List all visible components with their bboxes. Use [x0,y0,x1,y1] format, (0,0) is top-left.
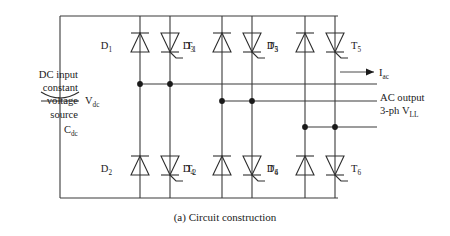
T4-gate-lead [252,175,265,181]
label-D2: D2 [101,163,113,177]
device-T6 [326,156,348,181]
ac-output-line-2-base: 3-ph V [380,105,410,116]
dc-input-line-3: voltage [6,94,78,107]
T6-gate-lead [335,175,348,181]
label-T5-sub: 5 [357,46,361,54]
T3-gate-lead [252,52,265,58]
ac-output-lines [140,84,377,127]
circuit-figure: D1 T1 D3 T3 D5 T5 D2 T2 [0,0,450,236]
label-c-dc-sub: dc [71,130,78,138]
dc-input-line-2: constant [6,81,78,94]
device-T1 [161,33,183,58]
label-D1-sub: 1 [108,46,112,54]
ac-output-line-1: AC output [380,91,424,104]
label-D3-sub: 3 [190,46,194,54]
node-phase-a-thyristor [167,81,173,87]
i-ac-arrow-head [366,69,374,76]
label-D5-sub: 5 [274,46,278,54]
T2-gate-lead [170,175,183,181]
label-c-dc-base: C [64,124,71,135]
node-phase-a-diode [137,81,143,87]
label-i-ac-sub: ac [383,73,389,81]
phase-c-leg [296,16,348,198]
node-phase-c-diode [302,124,308,130]
label-D4-sub: 4 [190,169,194,177]
node-phase-c-thyristor [332,124,338,130]
ac-output-line-2: 3-ph VLL [380,104,424,121]
phase-b-leg [213,16,265,198]
phase-a-leg [131,16,183,198]
label-i-ac: Iac [379,67,389,81]
device-T3 [243,33,265,58]
dc-input-source-label: DC input constant voltage source [6,68,78,121]
ac-output-annotation: AC output 3-ph VLL [380,91,424,122]
label-c-dc: Cdc [64,124,78,138]
node-phase-b-thyristor [249,98,255,104]
label-D2-sub: 2 [108,169,112,177]
dc-input-line-4: source [6,108,78,121]
label-D3: D3 [183,40,195,54]
ac-output-line-2-sub: LL [410,110,419,119]
output-current-arrow-group [340,69,374,76]
label-D6: D6 [267,163,279,177]
label-T6: T6 [351,163,361,177]
device-T5 [326,33,348,58]
device-T2 [161,156,183,181]
label-v-dc-sub: dc [93,101,100,109]
label-D6-sub: 6 [274,169,278,177]
label-T5: T5 [351,40,361,54]
label-D1: D1 [101,40,113,54]
label-T6-sub: 6 [357,169,361,177]
figure-caption: (a) Circuit construction [0,211,450,224]
node-phase-b-diode [219,98,225,104]
device-T4 [243,156,265,181]
label-v-dc: Vdc [85,95,99,109]
T1-gate-lead [170,52,183,58]
junction-dots [137,81,338,130]
T5-gate-lead [335,52,348,58]
dc-input-line-1: DC input [6,68,78,81]
label-D5: D5 [267,40,279,54]
label-D4: D4 [183,163,195,177]
